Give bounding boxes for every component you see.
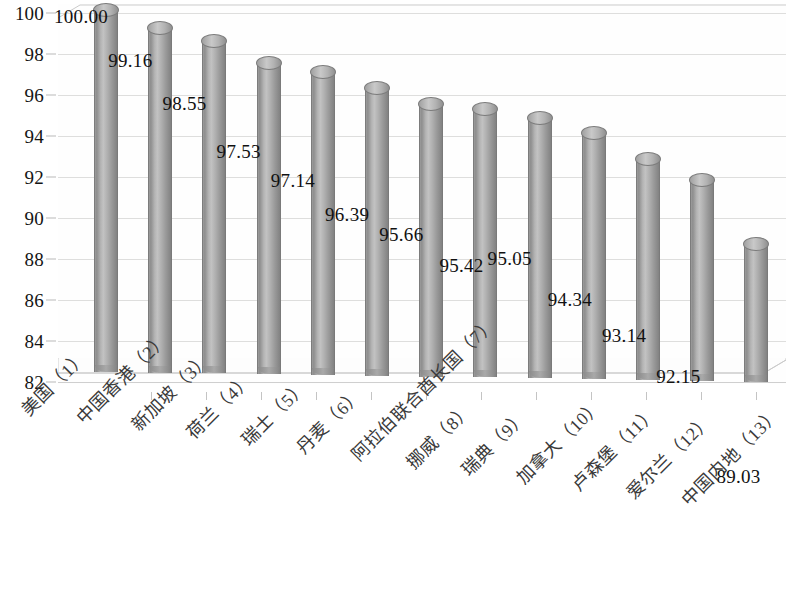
bar-cylinder-top-ellipse bbox=[689, 173, 715, 187]
bar-value-label: 100.00 bbox=[54, 7, 108, 26]
y-axis-tick-label: 94 bbox=[25, 127, 44, 146]
bar-cylinder-top-ellipse bbox=[310, 65, 336, 79]
bar-cylinder-body bbox=[202, 41, 226, 373]
y-axis-tick-mark bbox=[46, 341, 56, 342]
bar-cylinder-top-ellipse bbox=[527, 111, 553, 125]
y-axis-tick-mark bbox=[46, 300, 56, 301]
x-axis-tick-mark bbox=[481, 392, 482, 400]
x-axis-tick-mark bbox=[206, 392, 207, 400]
bar-value-label: 95.05 bbox=[488, 249, 532, 268]
bar-cylinder-top-ellipse bbox=[418, 97, 444, 111]
bar-cylinder[interactable] bbox=[202, 34, 226, 373]
bar-cylinder-top-ellipse bbox=[256, 56, 282, 70]
bar-cylinder-body bbox=[148, 28, 172, 373]
bar-cylinder[interactable] bbox=[690, 173, 714, 381]
bar-cylinder-body bbox=[690, 180, 714, 381]
bar-value-label: 92.15 bbox=[656, 367, 700, 386]
bar-cylinder[interactable] bbox=[636, 152, 660, 380]
bar-value-label: 95.66 bbox=[379, 225, 423, 244]
x-axis-tick-mark bbox=[756, 392, 757, 400]
x-axis-tick-mark bbox=[261, 392, 262, 400]
bar-cylinder[interactable] bbox=[744, 237, 768, 381]
y-axis-tick-mark bbox=[46, 177, 56, 178]
bar-value-label: 94.34 bbox=[548, 290, 592, 309]
y-axis-tick-label: 88 bbox=[25, 250, 44, 269]
y-axis-tick-label: 92 bbox=[25, 168, 44, 187]
y-axis-tick-label: 86 bbox=[25, 291, 44, 310]
bar-cylinder-top-ellipse bbox=[635, 152, 661, 166]
y-axis-tick-mark bbox=[46, 259, 56, 260]
bar-cylinder-body bbox=[744, 244, 768, 381]
y-axis-tick-label: 98 bbox=[25, 45, 44, 64]
y-axis-tick-mark bbox=[46, 136, 56, 137]
bar-value-label: 98.55 bbox=[162, 94, 206, 113]
y-axis-tick-mark bbox=[46, 218, 56, 219]
y-axis-tick-mark bbox=[46, 95, 56, 96]
bar-cylinder[interactable] bbox=[148, 21, 172, 373]
y-axis-tick-label: 96 bbox=[25, 86, 44, 105]
bar-cylinder-top-ellipse bbox=[581, 126, 607, 140]
bar-cylinder-body bbox=[636, 159, 660, 380]
bar-cylinder[interactable] bbox=[528, 111, 552, 379]
y-axis-tick-label: 84 bbox=[25, 332, 44, 351]
x-axis-tick-mark bbox=[536, 392, 537, 400]
y-axis: 100989694929088868482 bbox=[0, 0, 58, 388]
bar-cylinder-body bbox=[257, 63, 281, 374]
chart-root: 100.0099.1698.5597.5397.1496.3995.6695.4… bbox=[0, 0, 791, 597]
x-axis-tick-mark bbox=[371, 392, 372, 400]
bar-value-label: 95.42 bbox=[439, 256, 483, 275]
bar-value-label: 93.14 bbox=[602, 326, 646, 345]
plot-area: 100.0099.1698.5597.5397.1496.3995.6695.4… bbox=[58, 4, 786, 384]
bar-cylinder-top-ellipse bbox=[147, 21, 173, 35]
bar-value-label: 99.16 bbox=[108, 51, 152, 70]
x-axis-tick-mark bbox=[316, 392, 317, 400]
y-axis-tick-label: 100 bbox=[15, 4, 44, 23]
x-axis-tick-mark bbox=[701, 392, 702, 400]
y-axis-tick-mark bbox=[46, 54, 56, 55]
bar-cylinder-top-ellipse bbox=[364, 81, 390, 95]
y-axis-tick-label: 90 bbox=[25, 209, 44, 228]
bar-value-label: 96.39 bbox=[325, 205, 369, 224]
x-axis-tick-mark bbox=[646, 392, 647, 400]
bar-series bbox=[58, 4, 786, 384]
bar-cylinder[interactable] bbox=[257, 56, 281, 374]
y-axis-tick-mark bbox=[46, 13, 56, 14]
x-axis-category-labels: 美国（1）中国香港（2）新加坡（3）荷兰（4）瑞士（5）丹麦（6）阿拉伯联合酋长… bbox=[0, 392, 791, 597]
bar-value-label: 97.14 bbox=[271, 171, 315, 190]
bar-value-label: 97.53 bbox=[217, 142, 261, 161]
